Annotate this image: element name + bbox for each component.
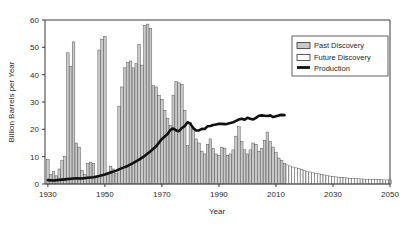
bar [238,127,241,184]
bar [175,82,178,185]
bar [386,180,389,184]
bar [92,164,95,185]
bar [369,179,372,184]
chart-canvas: 0102030405060 19301950197019902010203020… [0,0,418,226]
bar [166,118,169,184]
bar [189,123,192,185]
bar [132,68,135,184]
y-tick-label: 20 [30,125,39,134]
bar [312,173,315,184]
bar [203,154,206,184]
bar [283,164,286,185]
bar [109,166,112,184]
bar [135,64,138,184]
bar [372,179,375,184]
legend-swatch-past-discovery [297,43,310,49]
bar [275,153,278,184]
bar [303,170,306,184]
bar [223,148,226,184]
bar [58,169,61,184]
bar [69,66,72,184]
bar [277,158,280,184]
bar [146,24,149,184]
bar [198,143,201,184]
bar [138,45,141,184]
bar [209,139,212,184]
bar [380,180,383,184]
bar [329,176,332,184]
x-axis-ticks: 1930195019701990201020302050 [39,184,399,199]
bar [286,165,289,184]
discovery-production-chart: 0102030405060 19301950197019902010203020… [0,0,418,226]
legend-label-future-discovery: Future Discovery [314,53,371,62]
bar [252,143,255,184]
bar [280,161,283,184]
bar [295,168,298,184]
bar [229,154,232,184]
y-tick-label: 60 [30,16,39,25]
bar [289,166,292,184]
bar [349,178,352,184]
bar [67,53,70,184]
bar [195,139,198,184]
bar [118,106,121,184]
bar [143,25,146,184]
bar [141,65,144,184]
bar [260,148,263,184]
bar [266,132,269,184]
legend-label-production: Production [314,64,350,73]
bar [98,50,101,184]
bar [155,87,158,184]
x-tick-label: 2030 [324,190,342,199]
bar [326,176,329,184]
bar [101,39,104,184]
bar [181,84,184,184]
bar [320,174,323,184]
x-tick-label: 2050 [381,190,399,199]
bar [243,150,246,184]
bar [337,177,340,184]
bar [226,155,229,184]
bar [212,148,215,184]
bar [169,125,172,184]
bar [383,180,386,184]
bar [72,42,75,184]
bar [115,173,118,184]
chart-legend: Past Discovery Future Discovery Producti… [292,36,388,76]
bar [269,142,272,184]
bar [315,173,318,184]
bar [263,140,266,184]
x-tick-label: 1950 [96,190,114,199]
bar [163,110,166,184]
bar [246,154,249,184]
bar [363,179,366,184]
bar [89,162,92,184]
y-tick-label: 30 [30,98,39,107]
bar [332,177,335,184]
bar [183,110,186,184]
y-axis-ticks: 0102030405060 [30,16,45,189]
y-tick-label: 50 [30,43,39,52]
bar [352,179,355,184]
bar [366,179,369,184]
bar [297,169,300,184]
y-axis-title: Billion Barrels per Year [7,61,16,142]
bar [335,177,338,184]
bar [343,178,346,184]
bar [272,147,275,184]
bar [235,136,238,184]
legend-swatch-future-discovery [297,55,310,61]
bar [354,179,357,184]
x-tick-label: 1990 [210,190,228,199]
future-discovery-bars [286,165,391,184]
bar [215,154,218,184]
bar [192,129,195,184]
legend-label-past-discovery: Past Discovery [314,41,364,50]
bar [201,151,204,184]
bar [346,178,349,184]
bar [152,86,155,184]
x-axis-title: Year [209,207,226,216]
bar [255,144,258,184]
bar [172,95,175,184]
past-discovery-bars [47,24,286,184]
